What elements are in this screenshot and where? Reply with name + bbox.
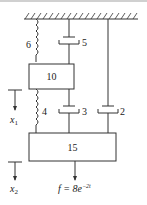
applied-force: f = 8e−2t — [58, 161, 91, 194]
x1-label: x1 — [9, 114, 18, 127]
ceiling — [24, 13, 138, 19]
damper-2: 2 — [98, 19, 125, 133]
mass-10: 10 — [29, 64, 74, 89]
mass-15-label: 15 — [68, 142, 78, 153]
spring-6-label: 6 — [26, 39, 31, 50]
damper-3-label: 3 — [82, 106, 87, 117]
damper-5-label: 5 — [82, 37, 87, 48]
mechanical-system-diagram: 6 5 10 2 x1 4 3 — [0, 0, 147, 205]
x2-displacement: x2 — [8, 162, 22, 196]
force-label: f = 8e−2t — [58, 183, 91, 194]
damper-2-label: 2 — [120, 106, 125, 117]
spring-4: 4 — [36, 89, 47, 133]
x2-label: x2 — [9, 183, 18, 196]
x1-displacement: x1 — [8, 90, 22, 127]
mass-10-label: 10 — [47, 71, 57, 82]
mass-15: 15 — [29, 133, 116, 161]
damper-3: 3 — [59, 89, 87, 133]
spring-6: 6 — [26, 19, 38, 62]
spring-4-label: 4 — [42, 106, 47, 117]
damper-5: 5 — [59, 19, 87, 64]
